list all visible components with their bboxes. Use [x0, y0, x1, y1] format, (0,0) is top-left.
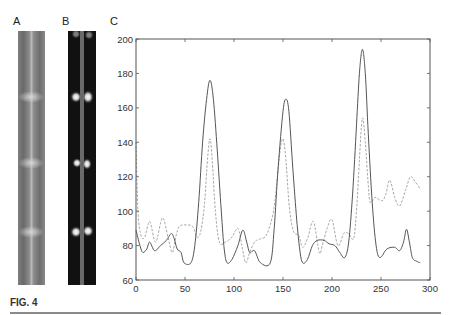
- y-tick-label: 60: [122, 275, 133, 286]
- x-tick-label: 300: [422, 283, 438, 294]
- plot-frame: [136, 39, 430, 280]
- y-tick-label: 140: [117, 137, 133, 148]
- series-line-dashed: [136, 118, 420, 263]
- y-tick-label: 120: [117, 171, 133, 182]
- caption-rule: [10, 312, 441, 314]
- intensity-profile-chart: 0501001502002503006080100120140160180200: [0, 0, 451, 315]
- x-tick-label: 0: [133, 283, 138, 294]
- x-tick-label: 100: [226, 283, 242, 294]
- y-tick-label: 80: [122, 240, 133, 251]
- x-tick-label: 150: [275, 283, 291, 294]
- series-line-solid: [136, 49, 420, 266]
- y-tick-label: 100: [117, 206, 133, 217]
- y-tick-label: 180: [117, 68, 133, 79]
- x-tick-label: 200: [324, 283, 340, 294]
- chart-series: [136, 49, 420, 266]
- x-tick-label: 250: [373, 283, 389, 294]
- y-tick-label: 160: [117, 102, 133, 113]
- x-tick-label: 50: [180, 283, 191, 294]
- y-tick-label: 200: [117, 34, 133, 45]
- axis-ticks: 0501001502002503006080100120140160180200: [117, 34, 438, 295]
- figure-caption: FIG. 4: [10, 296, 38, 308]
